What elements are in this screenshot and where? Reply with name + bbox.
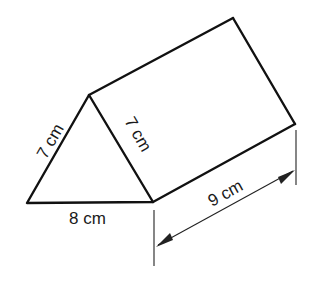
arrowhead-left-icon [156, 233, 173, 247]
label-length: 9 cm [205, 176, 246, 210]
ridge-edge [89, 18, 233, 95]
label-base: 8 cm [69, 209, 106, 228]
label-right-side: 7 cm [121, 114, 156, 155]
prism-diagram: 7 cm 7 cm 8 cm 9 cm [0, 0, 314, 281]
prism-svg: 7 cm 7 cm 8 cm 9 cm [0, 0, 314, 281]
back-slant-edge [233, 18, 295, 124]
arrowhead-right-icon [278, 170, 295, 184]
